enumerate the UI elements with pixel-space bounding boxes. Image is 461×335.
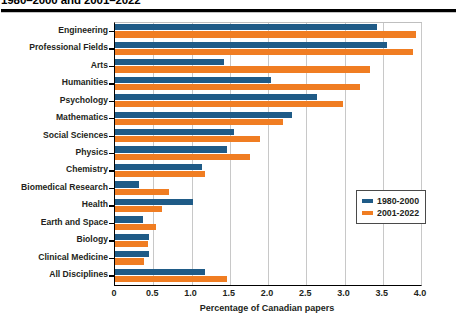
legend-label-1980-2000: 1980-2000 [377,196,419,206]
bar-2001-2022 [115,206,162,212]
bar-group [115,128,421,145]
bar-1980-2000 [115,216,143,222]
bar-1980-2000 [115,234,149,240]
y-axis-label-health: Health [0,199,108,209]
bar-1980-2000 [115,112,292,118]
gridline-4.0 [421,23,422,285]
y-axis-label-all-disciplines: All Disciplines [0,269,108,279]
legend-swatch-icon-1980-2000 [362,199,373,202]
bar-group [115,233,421,250]
bar-2001-2022 [115,189,169,195]
y-axis-label-chemistry: Chemistry [0,164,108,174]
y-axis-label-biology: Biology [0,234,108,244]
bar-2001-2022 [115,66,370,72]
chart-figure: 1980–2000 and 2001–2022 EngineeringProfe… [0,0,461,335]
legend-item-1980-2000: 1980-2000 [362,195,419,207]
bar-group [115,250,421,267]
plot-area [114,22,422,286]
x-axis-tick-label-2.5: 2.5 [299,288,312,298]
bar-1980-2000 [115,164,202,170]
figure-title: 1980–2000 and 2001–2022 [0,0,461,9]
y-axis-label-psychology: Psychology [0,95,108,105]
bar-1980-2000 [115,251,149,257]
bar-2001-2022 [115,224,156,230]
x-axis-tick-labels: 00.51.01.52.02.53.03.54.0 [0,288,461,302]
bar-1980-2000 [115,146,227,152]
title-divider-shadow [1,12,456,13]
bar-group [115,40,421,57]
bar-rows [115,23,421,285]
bar-2001-2022 [115,136,260,142]
x-axis-tick-label-2.0: 2.0 [261,288,274,298]
bar-1980-2000 [115,24,377,30]
x-axis-tick-label-3.0: 3.0 [337,288,350,298]
x-axis-tick-label-0: 0 [111,288,116,298]
bar-1980-2000 [115,77,271,83]
bar-2001-2022 [115,101,343,107]
bar-2001-2022 [115,119,283,125]
bar-1980-2000 [115,59,224,65]
bar-2001-2022 [115,258,144,264]
y-axis-label-social-sciences: Social Sciences [0,130,108,140]
y-axis-label-clinical-medicine: Clinical Medicine [0,252,108,262]
bar-group [115,23,421,40]
bar-group [115,58,421,75]
bar-2001-2022 [115,154,250,160]
bar-1980-2000 [115,181,139,187]
figure-title-container: 1980–2000 and 2001–2022 [0,0,461,9]
x-axis-tick-label-1.5: 1.5 [222,288,235,298]
bar-1980-2000 [115,129,234,135]
y-axis-label-mathematics: Mathematics [0,112,108,122]
bar-group [115,93,421,110]
y-axis-label-arts: Arts [0,60,108,70]
y-axis-label-earth-and-space: Earth and Space [0,217,108,227]
y-axis-labels: EngineeringProfessional FieldsArtsHumani… [0,22,108,284]
y-axis-label-biomedical-research: Biomedical Research [0,182,108,192]
bar-group [115,268,421,285]
y-axis-label-engineering: Engineering [0,25,108,35]
bar-group [115,75,421,92]
bar-2001-2022 [115,171,205,177]
legend: 1980-2000 2001-2022 [356,190,426,224]
bar-group [115,163,421,180]
y-axis-label-physics: Physics [0,147,108,157]
bar-2001-2022 [115,84,360,90]
bar-group [115,110,421,127]
y-axis-label-professional-fields: Professional Fields [0,42,108,52]
bar-group [115,145,421,162]
legend-swatch-icon-2001-2022 [362,211,373,214]
bar-2001-2022 [115,276,227,282]
x-axis-tick-label-1.0: 1.0 [184,288,197,298]
bar-2001-2022 [115,241,148,247]
y-axis-label-humanities: Humanities [0,77,108,87]
bar-1980-2000 [115,269,205,275]
x-axis-title: Percentage of Canadian papers [114,303,420,313]
x-axis-tick-label-3.5: 3.5 [375,288,388,298]
legend-item-2001-2022: 2001-2022 [362,207,419,219]
bar-1980-2000 [115,199,193,205]
bar-1980-2000 [115,42,387,48]
bar-2001-2022 [115,49,413,55]
x-axis-tick-label-0.5: 0.5 [146,288,159,298]
bar-2001-2022 [115,31,416,37]
legend-label-2001-2022: 2001-2022 [377,208,419,218]
bar-1980-2000 [115,94,317,100]
x-axis-tick-label-4.0: 4.0 [414,288,427,298]
